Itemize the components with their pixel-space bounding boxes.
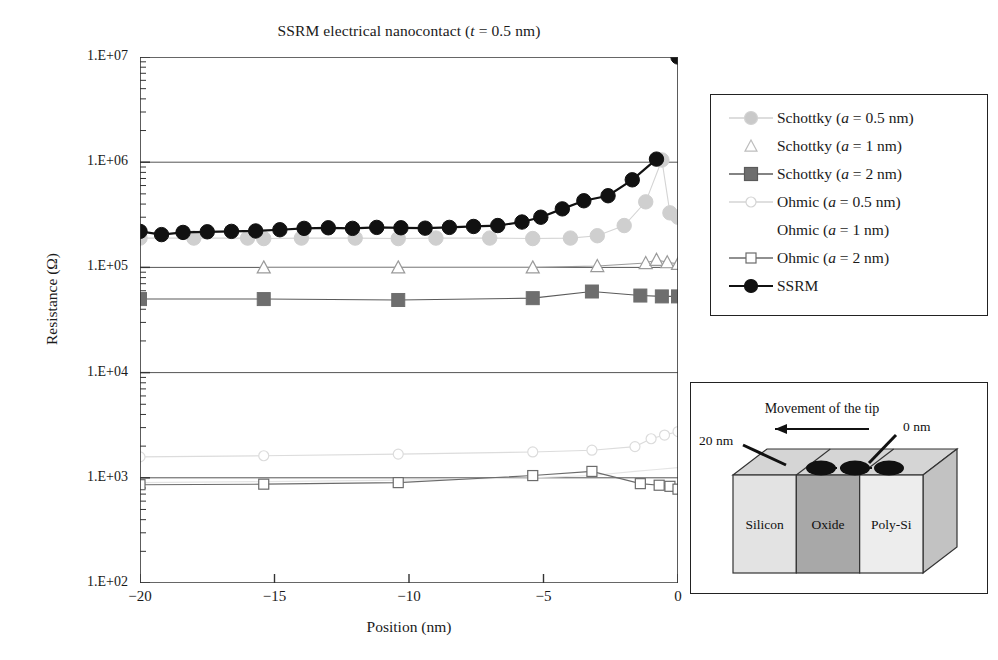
x-tick-label: −15 — [245, 588, 305, 605]
inset-title: Movement of the tip — [765, 401, 880, 416]
legend-key-schottky-05-icon — [725, 107, 777, 129]
legend-label-suffix: = 1 nm) — [836, 221, 889, 238]
y-tick-label: 1.E+07 — [58, 48, 128, 64]
legend-key-ohmic-1-icon — [725, 219, 777, 241]
x-tick-label: −10 — [379, 588, 439, 605]
x-tick-label: −5 — [514, 588, 574, 605]
plot-area — [140, 57, 678, 583]
inset-diagram: SiliconOxidePoly-SiMovement of the tip20… — [690, 382, 988, 594]
legend-label-prefix: Schottky ( — [777, 165, 841, 182]
chart-title-suffix: = 0.5 nm) — [475, 22, 541, 39]
legend-label-prefix: SSRM — [777, 277, 818, 294]
legend-item-label: SSRM — [777, 277, 818, 295]
inset-block-label: Oxide — [812, 517, 845, 532]
chart-legend: Schottky (a = 0.5 nm)Schottky (a = 1 nm)… — [710, 94, 988, 316]
x-axis-title: Position (nm) — [140, 618, 678, 636]
legend-label-prefix: Schottky ( — [777, 109, 841, 126]
figure-root: SSRM electrical nanocontact (t = 0.5 nm)… — [0, 0, 998, 660]
inset-block-label: Silicon — [746, 517, 785, 532]
legend-item[interactable]: Ohmic (a = 2 nm) — [711, 244, 987, 272]
series-3 — [140, 427, 678, 462]
legend-key-schottky-2-icon — [725, 163, 777, 185]
legend-label-suffix: = 0.5 nm) — [836, 193, 901, 210]
legend-label-prefix: Ohmic ( — [777, 221, 828, 238]
legend-label-italic: a — [828, 221, 836, 238]
legend-item-label: Ohmic (a = 1 nm) — [777, 221, 889, 239]
y-tick-label: 1.E+04 — [58, 364, 128, 380]
legend-label-prefix: Schottky ( — [777, 137, 841, 154]
legend-item-label: Schottky (a = 2 nm) — [777, 165, 902, 183]
legend-label-italic: a — [828, 249, 836, 266]
y-tick-label: 1.E+05 — [58, 258, 128, 274]
series-2 — [140, 285, 678, 306]
legend-label-prefix: Ohmic ( — [777, 249, 828, 266]
legend-label-italic: a — [841, 165, 849, 182]
legend-label-suffix: = 1 nm) — [849, 137, 902, 154]
legend-item[interactable]: Schottky (a = 2 nm) — [711, 160, 987, 188]
inset-right-label: 0 nm — [903, 419, 931, 434]
x-tick-label: −20 — [110, 588, 170, 605]
inset-block-label: Poly-Si — [871, 517, 912, 532]
legend-key-ohmic-05-icon — [725, 191, 777, 213]
inset-svg: SiliconOxidePoly-SiMovement of the tip20… — [691, 383, 987, 593]
plot-svg — [140, 57, 678, 583]
legend-label-italic: a — [828, 193, 836, 210]
legend-item[interactable]: Schottky (a = 0.5 nm) — [711, 104, 987, 132]
legend-label-italic: a — [841, 109, 849, 126]
legend-label-suffix: = 2 nm) — [836, 249, 889, 266]
legend-item[interactable]: Ohmic (a = 0.5 nm) — [711, 188, 987, 216]
legend-item-label: Schottky (a = 0.5 nm) — [777, 109, 914, 127]
legend-item[interactable]: Ohmic (a = 1 nm) — [711, 216, 987, 244]
chart-title-prefix: SSRM electrical nanocontact ( — [278, 22, 471, 39]
legend-item[interactable]: SSRM — [711, 272, 987, 300]
chart-title: SSRM electrical nanocontact (t = 0.5 nm) — [140, 22, 678, 40]
y-tick-label: 1.E+06 — [58, 153, 128, 169]
legend-item-label: Schottky (a = 1 nm) — [777, 137, 902, 155]
legend-key-schottky-1-icon — [725, 135, 777, 157]
y-tick-label: 1.E+03 — [58, 469, 128, 485]
legend-label-suffix: = 0.5 nm) — [849, 109, 914, 126]
series-6 — [140, 57, 678, 242]
legend-key-ohmic-2-icon — [725, 247, 777, 269]
inset-left-label: 20 nm — [699, 433, 734, 448]
legend-label-italic: a — [841, 137, 849, 154]
series-1 — [257, 253, 678, 273]
legend-key-ssrm-icon — [725, 275, 777, 297]
legend-item-label: Ohmic (a = 2 nm) — [777, 249, 889, 267]
legend-item-label: Ohmic (a = 0.5 nm) — [777, 193, 901, 211]
legend-label-suffix: = 2 nm) — [849, 165, 902, 182]
legend-item[interactable]: Schottky (a = 1 nm) — [711, 132, 987, 160]
legend-label-prefix: Ohmic ( — [777, 193, 828, 210]
